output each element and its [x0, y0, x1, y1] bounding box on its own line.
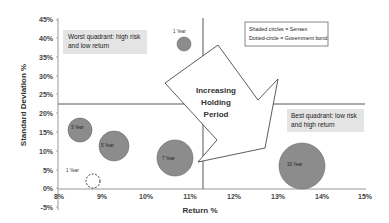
- bubble-sensex-10-year: 10 Year: [279, 143, 325, 189]
- svg-text:12%: 12%: [227, 193, 242, 200]
- svg-text:8%: 8%: [54, 193, 65, 200]
- svg-text:30%: 30%: [39, 73, 54, 80]
- svg-text:40%: 40%: [39, 35, 54, 42]
- svg-text:Best quadrant: low risk: Best quadrant: low risk: [291, 112, 358, 120]
- svg-text:Holding: Holding: [201, 98, 231, 107]
- svg-text:Worst quadrant: high risk: Worst quadrant: high risk: [68, 33, 141, 41]
- y-tick-labels: 45% 40% 35% 30% 25% 20% 15% 10% 5% 0% -5…: [39, 16, 54, 211]
- bubble-sensex-7-year: 7 Year: [157, 140, 193, 176]
- svg-text:0%: 0%: [43, 185, 54, 192]
- svg-text:-5%: -5%: [41, 204, 54, 211]
- svg-text:1 Year: 1 Year: [66, 168, 79, 173]
- x-tick-labels: 8% 9% 10% 11% 12% 13% 14% 15%: [54, 193, 373, 200]
- svg-text:45%: 45%: [39, 16, 54, 23]
- bubble-government-bond-1-year: 1 Year: [66, 168, 100, 188]
- svg-text:Shaded circles = Sensex: Shaded circles = Sensex: [249, 26, 308, 32]
- svg-text:and high return: and high return: [291, 121, 335, 129]
- svg-text:15%: 15%: [358, 193, 373, 200]
- svg-text:13%: 13%: [271, 193, 286, 200]
- svg-text:9%: 9%: [97, 193, 108, 200]
- svg-text:Period: Period: [204, 110, 229, 119]
- svg-text:15%: 15%: [39, 129, 54, 136]
- svg-text:5 Year: 5 Year: [101, 143, 114, 148]
- x-axis-title: Return %: [182, 206, 217, 215]
- bubble-sensex-5-year: 5 Year: [99, 131, 129, 161]
- svg-text:3 Year: 3 Year: [71, 125, 84, 130]
- best-quadrant-annotation: Best quadrant: low risk and high return: [287, 109, 364, 132]
- bubble-sensex-3-year: 3 Year: [68, 118, 92, 142]
- bubble-chart: 45% 40% 35% 30% 25% 20% 15% 10% 5% 0% -5…: [0, 0, 389, 223]
- svg-text:11%: 11%: [183, 193, 197, 200]
- svg-text:7 Year: 7 Year: [162, 156, 175, 161]
- svg-text:10%: 10%: [139, 193, 154, 200]
- svg-text:25%: 25%: [39, 91, 54, 98]
- y-axis-title: Standard Deviation %: [19, 64, 28, 146]
- svg-text:and low return: and low return: [68, 42, 110, 49]
- svg-text:14%: 14%: [315, 193, 330, 200]
- legend: Shaded circles = Sensex Dotted-circle = …: [245, 22, 328, 46]
- worst-quadrant-annotation: Worst quadrant: high risk and low return: [63, 30, 147, 54]
- svg-text:10 Year: 10 Year: [287, 162, 303, 167]
- svg-text:5%: 5%: [43, 167, 54, 174]
- svg-text:Dotted-circle = Government bon: Dotted-circle = Government bond: [249, 35, 327, 41]
- bubble-sensex-1-year: 1 Year: [173, 29, 191, 51]
- svg-text:1 Year: 1 Year: [173, 29, 186, 34]
- svg-text:20%: 20%: [39, 110, 54, 117]
- svg-text:Increasing: Increasing: [196, 86, 236, 95]
- svg-text:35%: 35%: [39, 54, 54, 61]
- svg-text:10%: 10%: [39, 148, 54, 155]
